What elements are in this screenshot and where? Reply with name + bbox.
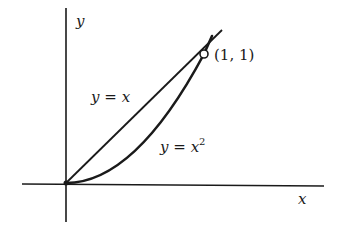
plot-canvas — [0, 0, 343, 228]
origin-point — [64, 181, 69, 186]
line-y-equals-x — [66, 30, 222, 183]
intersection-label: (1, 1) — [214, 48, 254, 63]
parabola-label-lhs: y — [160, 138, 168, 156]
intersection-point-marker — [200, 50, 208, 58]
figure: y x (1, 1) y = x y = x2 — [0, 0, 343, 228]
line-label-eq: = — [104, 88, 117, 106]
y-axis-label: y — [76, 14, 84, 29]
parabola-label-exponent: 2 — [199, 136, 205, 147]
line-label-lhs: y — [91, 88, 99, 106]
parabola-equation-label: y = x2 — [160, 137, 205, 155]
line-equation-label: y = x — [91, 90, 130, 105]
line-label-rhs: x — [122, 88, 130, 106]
parabola-label-eq: = — [173, 138, 186, 156]
parabola-label-rhs: x — [191, 138, 199, 156]
x-axis-label: x — [298, 192, 306, 207]
